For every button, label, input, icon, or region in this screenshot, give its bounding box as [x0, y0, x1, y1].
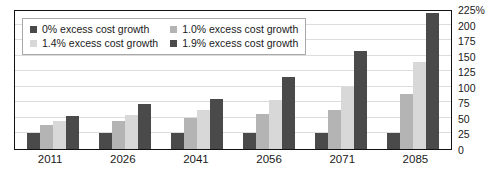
bar: [210, 99, 223, 149]
legend-label: 1.9% excess cost growth: [182, 37, 298, 49]
legend-item: 0% excess cost growth: [30, 23, 158, 35]
bar: [125, 115, 138, 149]
bar: [426, 13, 439, 149]
legend-swatch-icon: [30, 40, 37, 47]
bar: [40, 125, 53, 149]
legend-swatch-icon: [170, 26, 177, 33]
legend-item: 1.9% excess cost growth: [170, 37, 298, 49]
y-axis-tick-label: 75: [458, 98, 470, 109]
bar: [256, 114, 269, 149]
bar: [53, 121, 66, 149]
bar: [112, 121, 125, 149]
chart-figure: 225%2001751501251007550250 2011202620412…: [0, 0, 497, 176]
bar: [138, 104, 151, 149]
y-axis: 225%2001751501251007550250: [455, 0, 497, 160]
y-axis-tick-label: 175: [458, 36, 476, 47]
x-axis: 201120262041205620712085: [14, 153, 452, 165]
bar-group: [387, 11, 439, 149]
x-axis-tick-label: 2085: [403, 153, 429, 165]
x-axis-tick-label: 2026: [110, 153, 136, 165]
legend-item: 1.4% excess cost growth: [30, 37, 158, 49]
bar: [197, 110, 210, 149]
bar: [184, 118, 197, 149]
legend-label: 1.4% excess cost growth: [42, 37, 158, 49]
bar: [328, 110, 341, 149]
x-axis-tick-label: 2056: [256, 153, 282, 165]
y-axis-tick-label: 200: [458, 21, 476, 32]
y-axis-tick-label: 100: [458, 83, 476, 94]
legend-swatch-icon: [170, 40, 177, 47]
legend-item: 1.0% excess cost growth: [170, 23, 298, 35]
bar: [315, 133, 328, 149]
bar: [387, 133, 400, 149]
legend-label: 0% excess cost growth: [42, 23, 149, 35]
bar-group: [315, 11, 367, 149]
bar: [99, 133, 112, 149]
chart-legend: 0% excess cost growth1.0% excess cost gr…: [22, 18, 306, 55]
y-axis-tick-label: 0: [458, 145, 464, 156]
y-axis-tick-label: 25: [458, 129, 470, 140]
y-axis-tick-label: 225%: [458, 5, 485, 16]
x-axis-tick-label: 2071: [329, 153, 355, 165]
bar: [66, 116, 79, 149]
bar: [282, 77, 295, 149]
y-axis-tick-label: 150: [458, 52, 476, 63]
bar: [269, 100, 282, 149]
y-axis-tick-label: 50: [458, 114, 470, 125]
bar: [27, 133, 40, 149]
bar: [171, 133, 184, 149]
bar: [413, 62, 426, 149]
bar: [400, 94, 413, 149]
legend-swatch-icon: [30, 26, 37, 33]
x-axis-tick-label: 2011: [38, 153, 63, 165]
bar: [341, 87, 354, 149]
cropped-caption-sliver: [0, 0, 420, 3]
bar: [354, 51, 367, 149]
x-axis-tick-label: 2041: [183, 153, 209, 165]
legend-label: 1.0% excess cost growth: [182, 23, 298, 35]
y-axis-tick-label: 125: [458, 67, 476, 78]
bar: [243, 133, 256, 149]
